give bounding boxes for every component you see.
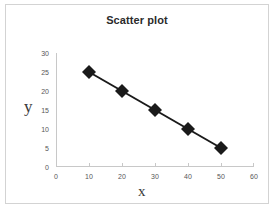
chart-title: Scatter plot bbox=[6, 14, 268, 26]
x-tick-label: 40 bbox=[181, 173, 195, 180]
y-tick-label: 20 bbox=[35, 88, 49, 95]
x-tick-label: 30 bbox=[148, 173, 162, 180]
data-point-marker[interactable] bbox=[115, 84, 129, 98]
y-tick-label: 25 bbox=[35, 69, 49, 76]
y-axis-label: y bbox=[24, 98, 33, 115]
y-tick-label: 15 bbox=[35, 107, 49, 114]
x-tick-label: 0 bbox=[49, 173, 63, 180]
scatter-plot-svg bbox=[56, 53, 254, 171]
y-tick-label: 0 bbox=[35, 164, 49, 171]
x-tick-label: 60 bbox=[247, 173, 261, 180]
plot-area bbox=[56, 53, 254, 167]
data-point-marker[interactable] bbox=[148, 103, 162, 117]
data-point-marker[interactable] bbox=[82, 65, 96, 79]
y-tick-label: 10 bbox=[35, 126, 49, 133]
y-tick-label: 5 bbox=[35, 145, 49, 152]
x-tick-label: 50 bbox=[214, 173, 228, 180]
y-tick-label: 30 bbox=[35, 50, 49, 57]
data-point-marker[interactable] bbox=[214, 141, 228, 155]
chart-frame: Scatter plot y x 30 25 20 15 10 5 0 0 10… bbox=[5, 4, 269, 204]
screenshot-root: Scatter plot y x 30 25 20 15 10 5 0 0 10… bbox=[0, 0, 277, 214]
data-point-marker[interactable] bbox=[181, 122, 195, 136]
x-axis-label: x bbox=[138, 184, 146, 199]
x-tick-label: 20 bbox=[115, 173, 129, 180]
data-series bbox=[82, 65, 228, 155]
x-tick-label: 10 bbox=[82, 173, 96, 180]
